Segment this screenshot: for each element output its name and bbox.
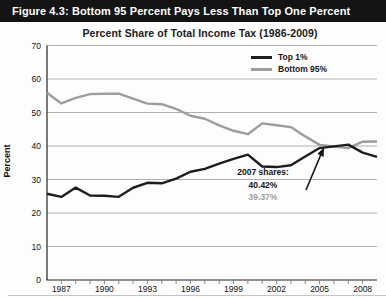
svg-text:1999: 1999 [224, 284, 243, 294]
svg-text:50: 50 [32, 108, 42, 118]
annotation-title: 2007 shares: [215, 166, 311, 179]
svg-text:20: 20 [32, 208, 42, 218]
line-chart: 0102030405060701987199019931996199920022… [0, 40, 386, 298]
svg-text:60: 60 [32, 74, 42, 84]
svg-text:1993: 1993 [138, 284, 157, 294]
svg-text:1990: 1990 [95, 284, 114, 294]
svg-text:40: 40 [32, 141, 42, 151]
annotation-2007-shares: 2007 shares: 40.42% 39.37% [215, 166, 311, 204]
svg-text:2005: 2005 [310, 284, 329, 294]
svg-text:1996: 1996 [181, 284, 200, 294]
legend-label-bottom95: Bottom 95% [278, 63, 327, 75]
bottom95-line-swatch [251, 68, 272, 71]
svg-text:0: 0 [36, 275, 41, 285]
legend-item-top1: Top 1% [251, 51, 327, 63]
figure-caption: Figure 4.3: Bottom 95 Percent Pays Less … [12, 5, 350, 17]
annotation-top1-value: 40.42% [215, 179, 311, 192]
annotation-bottom95-value: 39.37% [215, 191, 311, 204]
svg-text:2002: 2002 [267, 284, 286, 294]
figure-bottom-rule [8, 295, 386, 296]
chart-legend: Top 1% Bottom 95% [251, 51, 327, 75]
svg-text:2008: 2008 [353, 284, 372, 294]
top1-line-swatch [251, 56, 272, 59]
svg-text:30: 30 [32, 175, 42, 185]
legend-item-bottom95: Bottom 95% [251, 63, 327, 75]
svg-text:10: 10 [32, 242, 42, 252]
legend-label-top1: Top 1% [278, 51, 308, 63]
chart-title: Percent Share of Total Income Tax (1986-… [20, 27, 380, 39]
figure-caption-bar: Figure 4.3: Bottom 95 Percent Pays Less … [0, 0, 386, 22]
svg-text:1987: 1987 [52, 284, 71, 294]
svg-text:70: 70 [32, 41, 42, 51]
